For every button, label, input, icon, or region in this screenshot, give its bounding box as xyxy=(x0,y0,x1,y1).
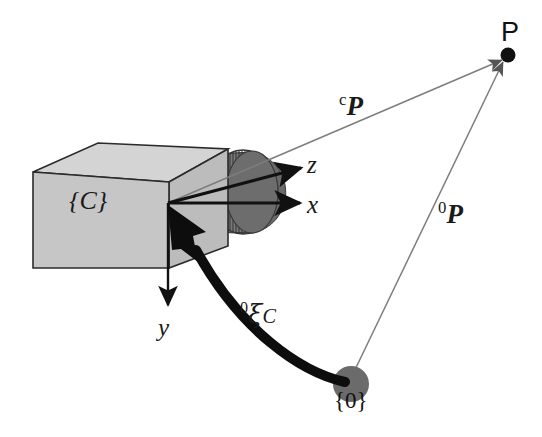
target-point-marker xyxy=(501,48,516,63)
axis-z-label: z xyxy=(307,152,317,177)
vector-world-to-point-label: 0P xyxy=(438,200,463,228)
world-frame-label: {0} xyxy=(334,389,368,412)
ray-camera-to-point xyxy=(168,60,502,203)
axis-x-label: x xyxy=(307,192,318,217)
axis-y-label: y xyxy=(158,315,169,340)
pose-superscript: 0 xyxy=(240,299,248,316)
target-point-label: P xyxy=(501,19,519,46)
ray-world-to-point xyxy=(351,62,503,378)
pose-label: 0ξC xyxy=(240,300,276,328)
vector-camera-to-point-label: cP xyxy=(339,92,363,120)
camera-frame-label: {C} xyxy=(69,188,107,214)
pose-subscript: C xyxy=(262,305,276,327)
figure-canvas: {C} z x y cP 0P 0ξC P {0} xyxy=(0,0,542,437)
pose-xi-glyph: ξ xyxy=(248,299,262,329)
vector-camera-base: P xyxy=(346,91,363,121)
vector-world-base: P xyxy=(446,199,463,229)
